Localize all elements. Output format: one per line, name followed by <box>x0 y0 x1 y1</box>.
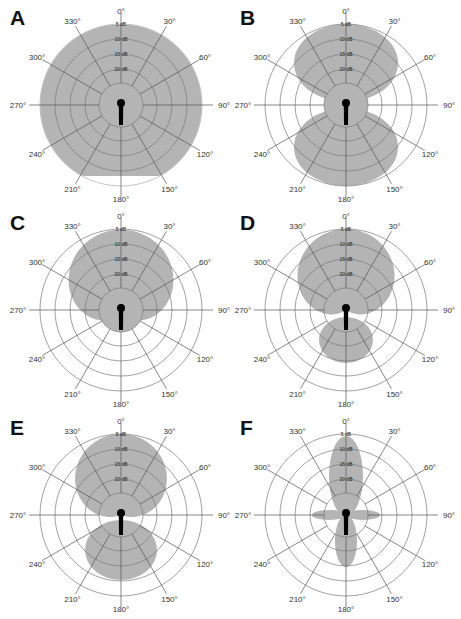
angle-label-180: 180° <box>113 605 130 614</box>
angle-label-330: 330° <box>64 222 81 231</box>
panel-letter: A <box>10 6 25 30</box>
angle-label-90: 90° <box>218 306 230 315</box>
angle-label-240: 240° <box>29 150 46 159</box>
angle-label-0: 0° <box>342 417 350 426</box>
db-label: 5 dB <box>341 21 352 27</box>
angle-label-150: 150° <box>386 390 403 399</box>
angle-label-150: 150° <box>161 390 178 399</box>
angle-label-30: 30° <box>163 222 175 231</box>
angle-label-150: 150° <box>161 595 178 604</box>
angle-label-90: 90° <box>443 511 455 520</box>
grid-spoke <box>301 329 336 389</box>
angle-label-210: 210° <box>289 185 306 194</box>
angle-label-300: 300° <box>254 258 271 267</box>
angle-label-210: 210° <box>64 390 81 399</box>
angle-label-60: 60° <box>199 53 211 62</box>
angle-label-180: 180° <box>113 400 130 409</box>
grid-spoke <box>357 534 392 594</box>
db-label: 5 dB <box>341 226 352 232</box>
panel-letter: F <box>240 416 253 440</box>
panel-letter: E <box>10 416 24 440</box>
grid-spoke <box>76 329 111 389</box>
angle-label-300: 300° <box>254 53 271 62</box>
db-label: 10 dB <box>114 241 128 247</box>
grid-spoke <box>267 526 327 561</box>
angle-label-240: 240° <box>29 355 46 364</box>
db-label: 20 dB <box>114 476 128 482</box>
polar-panel-d: 0°30°60°90°120°150°180°210°240°270°300°3… <box>230 205 460 411</box>
db-label: 20 dB <box>114 271 128 277</box>
grid-spoke <box>365 470 425 505</box>
panel-letter: C <box>10 211 25 235</box>
db-label: 20 dB <box>114 66 128 72</box>
angle-label-30: 30° <box>388 17 400 26</box>
angle-label-240: 240° <box>254 355 271 364</box>
angle-label-270: 270° <box>235 101 252 110</box>
angle-label-300: 300° <box>29 258 46 267</box>
db-label: 5 dB <box>116 21 127 27</box>
angle-label-180: 180° <box>113 195 130 204</box>
db-label: 15 dB <box>114 256 128 262</box>
angle-label-300: 300° <box>254 463 271 472</box>
angle-label-90: 90° <box>443 306 455 315</box>
grid-spoke <box>267 321 327 356</box>
angle-label-150: 150° <box>386 595 403 604</box>
angle-label-240: 240° <box>254 150 271 159</box>
grid-spoke <box>357 329 392 389</box>
angle-label-330: 330° <box>289 17 306 26</box>
angle-label-0: 0° <box>117 212 125 221</box>
polar-chart: 0°30°60°90°120°150°180°210°240°270°300°3… <box>230 0 460 208</box>
angle-label-30: 30° <box>163 17 175 26</box>
grid-spoke <box>132 329 167 389</box>
db-label: 10 dB <box>339 36 353 42</box>
angle-label-120: 120° <box>197 355 214 364</box>
db-label: 5 dB <box>341 431 352 437</box>
angle-label-270: 270° <box>235 306 252 315</box>
angle-label-180: 180° <box>338 400 355 409</box>
angle-label-60: 60° <box>199 258 211 267</box>
angle-label-330: 330° <box>64 17 81 26</box>
db-label: 15 dB <box>114 461 128 467</box>
angle-label-60: 60° <box>424 53 436 62</box>
db-label: 10 dB <box>114 446 128 452</box>
db-label: 5 dB <box>116 226 127 232</box>
polar-panel-a: 0°30°60°90°120°150°180°210°240°270°300°3… <box>0 0 230 206</box>
angle-label-180: 180° <box>338 195 355 204</box>
angle-label-330: 330° <box>64 427 81 436</box>
angle-label-120: 120° <box>422 355 439 364</box>
angle-label-240: 240° <box>254 560 271 569</box>
db-label: 10 dB <box>339 446 353 452</box>
db-label: 5 dB <box>116 431 127 437</box>
angle-label-60: 60° <box>199 463 211 472</box>
grid-spoke <box>301 534 336 594</box>
db-label: 15 dB <box>339 461 353 467</box>
grid-spoke <box>365 321 425 356</box>
angle-label-30: 30° <box>388 427 400 436</box>
polar-chart: 0°30°60°90°120°150°180°210°240°270°300°3… <box>230 205 460 413</box>
grid-spoke <box>42 321 102 356</box>
angle-label-210: 210° <box>64 185 81 194</box>
angle-label-210: 210° <box>289 595 306 604</box>
angle-label-150: 150° <box>386 185 403 194</box>
angle-label-30: 30° <box>163 427 175 436</box>
polar-chart: 0°30°60°90°120°150°180°210°240°270°300°3… <box>0 205 230 413</box>
angle-label-210: 210° <box>64 595 81 604</box>
db-label: 10 dB <box>114 36 128 42</box>
angle-label-120: 120° <box>197 150 214 159</box>
polar-panel-c: 0°30°60°90°120°150°180°210°240°270°300°3… <box>0 205 230 411</box>
angle-label-0: 0° <box>117 7 125 16</box>
angle-label-330: 330° <box>289 222 306 231</box>
angle-label-240: 240° <box>29 560 46 569</box>
polar-chart: 0°30°60°90°120°150°180°210°240°270°300°3… <box>230 410 460 618</box>
db-label: 20 dB <box>339 66 353 72</box>
angle-label-90: 90° <box>218 101 230 110</box>
angle-label-120: 120° <box>197 560 214 569</box>
grid-spoke <box>140 321 200 356</box>
db-label: 10 dB <box>339 241 353 247</box>
grid-spoke <box>365 526 425 561</box>
polar-chart: 0°30°60°90°120°150°180°210°240°270°300°3… <box>0 410 230 618</box>
angle-label-180: 180° <box>338 605 355 614</box>
angle-label-30: 30° <box>388 222 400 231</box>
db-label: 15 dB <box>114 51 128 57</box>
db-label: 15 dB <box>339 256 353 262</box>
